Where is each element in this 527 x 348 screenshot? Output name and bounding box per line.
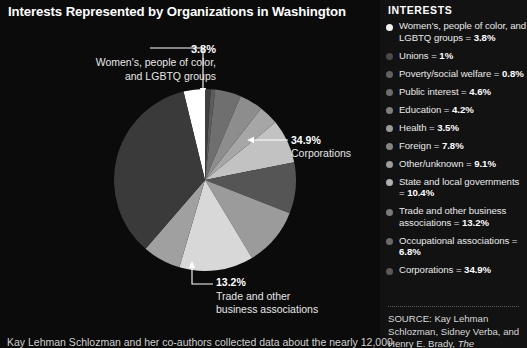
- legend-item[interactable]: Public interest = 4.6%: [386, 86, 527, 98]
- legend-heading: INTERESTS: [388, 4, 452, 16]
- legend-item[interactable]: Occupational associations = 6.8%: [386, 235, 527, 258]
- page-title: Interests Represented by Organizations i…: [8, 4, 368, 20]
- legend-item[interactable]: State and local governments = 10.4%: [386, 176, 527, 199]
- legend-bullet-icon: [386, 179, 393, 186]
- infographic-page: Interests Represented by Organizations i…: [0, 0, 527, 348]
- legend-item[interactable]: Trade and other business associations = …: [386, 205, 527, 228]
- callout-women: 3.8% Women's, people of color,and LGBTQ …: [6, 42, 216, 83]
- legend-item-label: Poverty/social welfare = 0.8%: [399, 68, 524, 80]
- legend-bullet-icon: [386, 53, 393, 60]
- legend-bullet-icon: [386, 107, 393, 114]
- callout-corporations-value: 34.9%: [291, 133, 377, 147]
- pie-chart: [113, 88, 297, 272]
- legend-item[interactable]: Women's, people of color, and LGBTQ grou…: [386, 20, 527, 43]
- legend-item-label: Foreign = 7.8%: [399, 140, 464, 152]
- legend-item[interactable]: Other/unknown = 9.1%: [386, 158, 527, 170]
- legend-item[interactable]: Health = 3.5%: [386, 122, 527, 134]
- bottom-caption: Kay Lehman Schlozman and her co-authors …: [7, 336, 527, 348]
- legend-divider: [388, 306, 519, 307]
- legend-bullet-icon: [386, 89, 393, 96]
- legend-bullet-icon: [386, 209, 393, 216]
- legend-bullet-icon: [386, 24, 393, 31]
- legend-panel: INTERESTS Women's, people of color, and …: [380, 0, 527, 348]
- callout-women-value: 3.8%: [6, 42, 216, 56]
- legend-item-label: Other/unknown = 9.1%: [399, 158, 496, 170]
- legend-bullet-icon: [386, 125, 393, 132]
- legend-item-label: Health = 3.5%: [399, 122, 459, 134]
- legend-item-label: Education = 4.2%: [399, 104, 474, 116]
- chart-panel: Interests Represented by Organizations i…: [0, 0, 380, 348]
- legend-bullet-icon: [386, 161, 393, 168]
- legend-item[interactable]: Education = 4.2%: [386, 104, 527, 116]
- callout-corporations: 34.9% Corporations: [291, 133, 377, 161]
- legend-item-label: Women's, people of color, and LGBTQ grou…: [399, 20, 527, 43]
- legend-bullet-icon: [386, 143, 393, 150]
- callout-trade: 13.2% Trade and otherbusiness associatio…: [216, 276, 366, 317]
- legend-item-label: Trade and other business associations = …: [399, 205, 527, 228]
- callout-trade-label: Trade and otherbusiness associations: [216, 290, 366, 317]
- legend-item-label: Corporations = 34.9%: [399, 264, 491, 276]
- legend-item-label: Unions = 1%: [399, 50, 453, 62]
- callout-women-label: Women's, people of color,and LGBTQ group…: [6, 56, 216, 83]
- legend-item-label: Public interest = 4.6%: [399, 86, 491, 98]
- callout-trade-value: 13.2%: [216, 276, 366, 290]
- legend-item[interactable]: Poverty/social welfare = 0.8%: [386, 68, 527, 80]
- legend-bullet-icon: [386, 238, 393, 245]
- legend-item-label: Occupational associations = 6.8%: [399, 235, 527, 258]
- legend-item[interactable]: Unions = 1%: [386, 50, 527, 62]
- legend-bullet-icon: [386, 71, 393, 78]
- legend-item-label: State and local governments = 10.4%: [399, 176, 527, 199]
- legend-item[interactable]: Corporations = 34.9%: [386, 264, 527, 276]
- legend-bullet-icon: [386, 268, 393, 275]
- legend-item[interactable]: Foreign = 7.8%: [386, 140, 527, 152]
- callout-corporations-label: Corporations: [291, 147, 377, 161]
- legend-list: Women's, people of color, and LGBTQ grou…: [386, 20, 527, 282]
